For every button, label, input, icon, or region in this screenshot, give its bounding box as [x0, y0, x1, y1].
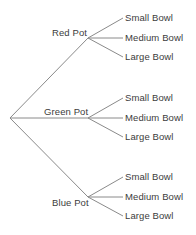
- leaf-label-green-pot-large-bowl: Large Bowl: [125, 132, 174, 142]
- stage2-edge-group: [88, 18, 123, 216]
- edge-green-pot-to-large-bowl: [88, 118, 123, 137]
- stage1-node-label-red-pot: Red Pot: [52, 28, 87, 38]
- edge-blue-pot-to-small-bowl: [88, 177, 123, 197]
- leaf-label-blue-pot-small-bowl: Small Bowl: [125, 172, 173, 182]
- stage1-node-label-green-pot: Green Pot: [44, 107, 88, 117]
- edge-green-pot-to-small-bowl: [88, 98, 123, 118]
- probability-tree-diagram: Red PotGreen PotBlue Pot Small BowlMediu…: [0, 0, 196, 235]
- leaf-label-green-pot-small-bowl: Small Bowl: [125, 93, 173, 103]
- leaf-label-green-pot-medium-bowl: Medium Bowl: [125, 113, 183, 123]
- leaf-label-red-pot-medium-bowl: Medium Bowl: [125, 33, 183, 43]
- leaf-label-red-pot-small-bowl: Small Bowl: [125, 13, 173, 23]
- stage1-edge-group: [10, 38, 88, 197]
- edge-blue-pot-to-large-bowl: [88, 197, 123, 216]
- edge-red-pot-to-small-bowl: [88, 18, 123, 38]
- edge-red-pot-to-large-bowl: [88, 38, 123, 57]
- leaf-label-blue-pot-medium-bowl: Medium Bowl: [125, 192, 183, 202]
- edge-root-to-blue-pot: [10, 118, 88, 197]
- stage1-node-label-blue-pot: Blue Pot: [52, 198, 89, 208]
- leaf-label-blue-pot-large-bowl: Large Bowl: [125, 211, 174, 221]
- leaf-label-red-pot-large-bowl: Large Bowl: [125, 52, 174, 62]
